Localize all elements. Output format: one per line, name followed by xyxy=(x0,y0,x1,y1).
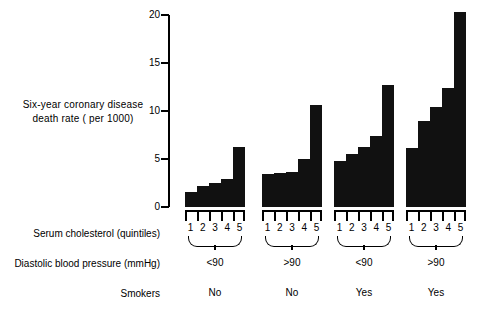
y-tick-label-15: 15 xyxy=(136,58,160,68)
quintile-comb-g3 xyxy=(334,210,394,221)
comb-bar xyxy=(185,210,245,212)
quintile-label: 3 xyxy=(210,222,221,234)
brace-stem xyxy=(291,245,293,250)
row-label-cholesterol: Serum cholesterol (quintiles) xyxy=(0,228,160,240)
comb-pin xyxy=(430,210,432,221)
comb-bar xyxy=(334,210,394,212)
quintile-comb-g1 xyxy=(185,210,245,221)
comb-pin xyxy=(197,210,199,221)
comb-pin xyxy=(346,210,348,221)
quintile-label: 4 xyxy=(222,222,233,234)
quintile-comb-g2 xyxy=(262,210,322,221)
quintile-label: 1 xyxy=(334,222,345,234)
quintile-label: 2 xyxy=(274,222,285,234)
smokers-value-g4: Yes xyxy=(394,287,478,299)
bar-g3-q4 xyxy=(370,136,382,207)
bar-g3-q2 xyxy=(346,154,358,207)
bar-g1-q3 xyxy=(209,183,221,207)
y-tick-label-5: 5 xyxy=(136,154,160,164)
y-tick-20 xyxy=(161,14,169,16)
quintile-label: 3 xyxy=(431,222,442,234)
quintile-label: 1 xyxy=(406,222,417,234)
quintile-label: 3 xyxy=(287,222,298,234)
bar-g4-q2 xyxy=(418,121,430,207)
bar-g2-q4 xyxy=(298,159,310,207)
y-tick-label-0: 0 xyxy=(136,202,160,212)
smokers-value-g1: No xyxy=(173,287,257,299)
plot-area: 05101520 xyxy=(168,15,468,207)
bar-g1-q2 xyxy=(197,186,209,207)
bar-g4-q3 xyxy=(430,107,442,207)
comb-pin xyxy=(286,210,288,221)
bar-g2-q2 xyxy=(274,173,286,207)
bar-g4-q5 xyxy=(454,12,466,207)
quintile-label: 4 xyxy=(443,222,454,234)
comb-bar xyxy=(406,210,466,212)
comb-pin xyxy=(274,210,276,221)
quintile-label: 2 xyxy=(197,222,208,234)
y-tick-15 xyxy=(161,62,169,64)
bar-g4-q1 xyxy=(406,148,418,207)
comb-pin xyxy=(442,210,444,221)
comb-pin xyxy=(358,210,360,221)
comb-pin xyxy=(262,210,264,221)
quintile-label: 2 xyxy=(418,222,429,234)
comb-pin xyxy=(406,210,408,221)
quintile-comb-g4 xyxy=(406,210,466,221)
comb-pin xyxy=(310,210,312,221)
comb-pin xyxy=(418,210,420,221)
quintile-label: 5 xyxy=(455,222,466,234)
comb-pin xyxy=(370,210,372,221)
bar-g2-q5 xyxy=(310,105,322,207)
bar-g1-q1 xyxy=(185,192,197,207)
comb-pin xyxy=(243,210,245,221)
comb-pin xyxy=(382,210,384,221)
comb-pin xyxy=(209,210,211,221)
bar-g3-q1 xyxy=(334,161,346,207)
group-braces xyxy=(168,236,468,250)
y-tick-label-10: 10 xyxy=(136,106,160,116)
comb-bar xyxy=(262,210,322,212)
bar-g2-q3 xyxy=(286,172,298,207)
chart-canvas: Six-year coronary disease death rate ( p… xyxy=(0,0,479,317)
y-tick-10 xyxy=(161,110,169,112)
quintile-labels-g1: 12345 xyxy=(185,222,245,234)
smokers-values: NoNoYesYes xyxy=(168,287,468,301)
quintile-number-labels: 12345123451234512345 xyxy=(168,222,468,236)
quintile-labels-g3: 12345 xyxy=(334,222,394,234)
quintile-label: 1 xyxy=(262,222,273,234)
comb-pin xyxy=(464,210,466,221)
quintile-label: 5 xyxy=(234,222,245,234)
bar-g3-q3 xyxy=(358,147,370,207)
quintile-labels-g2: 12345 xyxy=(262,222,322,234)
brace-stem xyxy=(435,245,437,250)
bar-g4-q4 xyxy=(442,88,454,207)
row-label-smokers: Smokers xyxy=(0,288,160,300)
blood-pressure-value-g4: >90 xyxy=(394,257,478,269)
y-tick-5 xyxy=(161,158,169,160)
row-label-blood-pressure: Diastolic blood pressure (mmHg) xyxy=(0,258,160,270)
blood-pressure-value-g1: <90 xyxy=(173,257,257,269)
quintile-label: 4 xyxy=(371,222,382,234)
brace-stem xyxy=(363,245,365,250)
comb-pin xyxy=(221,210,223,221)
comb-pin xyxy=(298,210,300,221)
bar-g2-q1 xyxy=(262,174,274,207)
bar-g1-q5 xyxy=(233,147,245,207)
quintile-label: 2 xyxy=(346,222,357,234)
comb-pin xyxy=(392,210,394,221)
quintile-label: 5 xyxy=(311,222,322,234)
blood-pressure-values: <90>90<90>90 xyxy=(168,257,468,271)
bar-g3-q5 xyxy=(382,85,394,207)
comb-pin xyxy=(334,210,336,221)
comb-pin xyxy=(454,210,456,221)
bar-g1-q4 xyxy=(221,179,233,207)
quintile-label: 1 xyxy=(185,222,196,234)
quintile-label: 4 xyxy=(299,222,310,234)
comb-pin xyxy=(233,210,235,221)
comb-pin xyxy=(185,210,187,221)
y-tick-0 xyxy=(161,206,169,208)
comb-pin xyxy=(320,210,322,221)
quintile-label: 5 xyxy=(383,222,394,234)
quintile-labels-g4: 12345 xyxy=(406,222,466,234)
